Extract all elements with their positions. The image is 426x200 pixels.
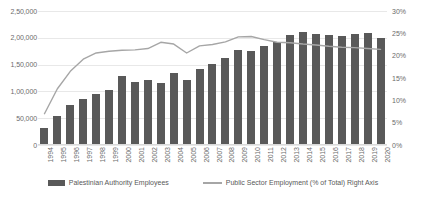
- x-tick-label: 1997: [86, 147, 93, 163]
- x-tick-label: 2020: [384, 147, 391, 163]
- x-tick-label: 2012: [280, 147, 287, 163]
- x-tick-label: 2001: [138, 147, 145, 163]
- y-tick-left: 0: [33, 142, 37, 149]
- y-tick-right: 20%: [392, 52, 406, 59]
- x-tick-label: 2015: [319, 147, 326, 163]
- chart-legend: Palestinian Authority Employees Public S…: [0, 176, 426, 190]
- y-tick-left: 2,00,000: [11, 34, 37, 41]
- x-tick-label: 1995: [60, 147, 67, 163]
- x-tick-label: 2010: [254, 147, 261, 163]
- plot-area: [38, 11, 387, 145]
- x-tick-label: 1996: [73, 147, 80, 163]
- legend-item-bar: Palestinian Authority Employees: [48, 179, 169, 187]
- x-tick-label: 1994: [47, 147, 54, 163]
- y-tick-right: 25%: [392, 30, 406, 37]
- legend-item-line: Public Sector Employment (% of Total) Ri…: [203, 179, 378, 187]
- x-tick-label: 2006: [203, 147, 210, 163]
- x-tick-label: 2009: [241, 147, 248, 163]
- y-tick-right: 0%: [392, 142, 402, 149]
- legend-line-swatch-icon: [203, 182, 222, 184]
- x-tick-label: 1999: [112, 147, 119, 163]
- y-tick-right: 30%: [392, 8, 406, 15]
- legend-bar-swatch-icon: [48, 180, 65, 186]
- x-axis-labels: 1994199519961997199819992000200120022003…: [38, 147, 387, 171]
- axis-baseline: [38, 144, 387, 145]
- x-tick-label: 2013: [293, 147, 300, 163]
- x-tick-label: 2004: [177, 147, 184, 163]
- y-tick-left: 1,50,000: [11, 61, 37, 68]
- x-tick-label: 2002: [151, 147, 158, 163]
- y-tick-right: 15%: [392, 75, 406, 82]
- x-tick-label: 2000: [125, 147, 132, 163]
- x-tick-label: 2019: [371, 147, 378, 163]
- x-tick-label: 2008: [228, 147, 235, 163]
- legend-bar-label: Palestinian Authority Employees: [69, 179, 169, 187]
- x-tick-label: 2003: [164, 147, 171, 163]
- x-tick-label: 2007: [216, 147, 223, 163]
- x-tick-label: 2011: [267, 147, 274, 162]
- x-tick-label: 2016: [332, 147, 339, 163]
- x-tick-label: 2014: [306, 147, 313, 163]
- y-tick-right: 5%: [392, 119, 402, 126]
- chart-container: 050,0001,00,0001,50,0002,00,0002,50,000 …: [0, 0, 426, 200]
- x-tick-label: 1998: [99, 147, 106, 163]
- y-tick-right: 10%: [392, 97, 406, 104]
- y-tick-left: 1,00,000: [11, 88, 37, 95]
- y-tick-left: 50,000: [16, 115, 37, 122]
- line-series: [38, 11, 387, 145]
- public-sector-line: [44, 36, 380, 113]
- x-tick-label: 2017: [345, 147, 352, 163]
- y-tick-left: 2,50,000: [11, 8, 37, 15]
- x-tick-label: 2005: [190, 147, 197, 163]
- x-tick-label: 2018: [358, 147, 365, 163]
- legend-line-label: Public Sector Employment (% of Total) Ri…: [226, 179, 378, 187]
